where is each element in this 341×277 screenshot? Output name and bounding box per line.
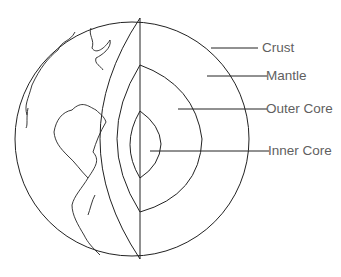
label-outer-core: Outer Core xyxy=(266,102,333,116)
label-mantle: Mantle xyxy=(266,69,307,83)
crust-boundary xyxy=(100,18,140,259)
continents xyxy=(26,28,110,255)
label-inner-core: Inner Core xyxy=(268,144,332,158)
inner-core-boundary xyxy=(130,111,161,178)
label-crust: Crust xyxy=(262,41,294,55)
outer-core-right xyxy=(140,65,202,212)
outer-core-boundary xyxy=(117,65,140,212)
